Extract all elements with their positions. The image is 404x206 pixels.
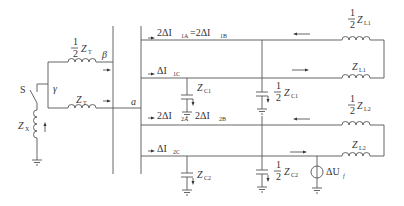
label-i1b-sub: 1B [220, 33, 227, 39]
label-node-beta: β [101, 49, 107, 60]
label-i1a-eq: =2ΔI [190, 27, 210, 38]
label-zt-half-sub: T [88, 49, 92, 55]
label-zc1: Z [197, 82, 203, 93]
label-zc1-half-den: 2 [276, 92, 281, 103]
zc2-capacitor-icon [181, 173, 193, 177]
label-i2c: ΔI [157, 143, 167, 154]
label-zl2-half-num: 1 [350, 93, 355, 104]
arrow-right-icon [151, 73, 155, 76]
label-zt: Z [76, 94, 82, 105]
arrow-down-icon [267, 99, 270, 103]
arrow-right-icon [151, 150, 155, 153]
half-zt-inductor-icon [68, 59, 96, 62]
arrow-down-icon [192, 102, 195, 106]
label-source: ΔU [326, 166, 340, 177]
zl1-inductor-icon [342, 75, 370, 79]
zc1-capacitor-icon [181, 95, 193, 99]
label-zc2-half: Z [284, 166, 290, 177]
label-zl1: Z [352, 61, 358, 72]
zx-inductor-icon [34, 110, 37, 138]
label-zc2-sub: C2 [204, 175, 211, 181]
ground-icon [32, 160, 42, 165]
label-zc2: Z [197, 169, 203, 180]
label-zl1-sub: L1 [359, 67, 366, 73]
label-zc2-half-num: 1 [276, 159, 281, 170]
arrow-right-icon [107, 69, 111, 72]
label-zt-sub: T [83, 100, 87, 106]
label-zc1-half-num: 1 [276, 80, 281, 91]
ground-icon [257, 109, 267, 114]
switch-blade-icon [30, 90, 37, 103]
label-node-gamma: γ [53, 83, 58, 94]
label-i1c-sub: 1C [173, 71, 180, 77]
label-i2a: 2ΔI [157, 110, 172, 121]
label-zc1-sub: C1 [204, 88, 211, 94]
label-switch-s: S [20, 84, 26, 95]
label-zl2-sub: L2 [359, 145, 366, 151]
line1-end-loop [370, 40, 384, 78]
arrow-right-icon [303, 151, 307, 154]
arrow-down-icon [267, 178, 270, 182]
label-i1a: 2ΔI [157, 27, 172, 38]
label-zc1-half-sub: C1 [291, 93, 298, 99]
half-zl1-inductor-icon [342, 37, 370, 41]
arrow-right-icon [305, 69, 309, 72]
half-zc1-capacitor-icon [256, 92, 268, 96]
line2-end-loop [370, 125, 384, 156]
label-zl1-half-num: 1 [350, 7, 355, 18]
label-i1c: ΔI [157, 65, 167, 76]
label-i1a-sub: 1A [181, 33, 189, 39]
label-i2c-sub: 2C [173, 149, 180, 155]
label-node-a: a [131, 96, 136, 107]
arrow-left-icon [293, 118, 297, 121]
half-zl2-inductor-icon [342, 122, 370, 126]
circuit-diagram: 1 2 Z T β γ Z T a S Z X [0, 0, 404, 206]
arrow-right-icon [107, 100, 111, 103]
label-zl2-half-sub: L2 [364, 106, 371, 112]
line-2-section: Z C2 1 2 Z C2 ΔU f 2ΔI 2A 2ΔI 2B [141, 93, 384, 195]
arrow-left-icon [293, 33, 297, 36]
label-zc2-half-sub: C2 [291, 172, 298, 178]
label-i2b-sub: 2B [219, 116, 226, 122]
ground-icon [312, 188, 322, 193]
label-zx-sub: X [25, 126, 30, 132]
zl2-inductor-icon [342, 153, 370, 157]
label-i2b: 2ΔI [195, 110, 210, 121]
arrow-up-icon [44, 122, 47, 126]
ground-icon [257, 187, 267, 192]
arrow-down-icon [192, 181, 195, 185]
bus-section [113, 26, 141, 174]
label-zx: Z [18, 120, 24, 131]
label-zc1-half: Z [284, 87, 290, 98]
switch-lead [37, 84, 48, 92]
transformer-section: 1 2 Z T β γ Z T a S Z X [18, 36, 141, 165]
label-i2a-sub: 2A [181, 116, 189, 122]
arrow-right-icon [151, 37, 155, 40]
line-1-section: Z C1 1 2 Z C1 2ΔI 1A =2ΔI 1B ΔI 1C [141, 7, 384, 117]
label-zl1-half-den: 2 [350, 19, 355, 30]
zt-inductor-icon [68, 105, 96, 109]
label-zc2-half-den: 2 [276, 171, 281, 182]
ground-icon [182, 190, 192, 195]
label-zl1-half-sub: L1 [364, 20, 371, 26]
label-zl2-half-den: 2 [350, 105, 355, 116]
label-zt-half-den: 2 [73, 48, 78, 59]
label-source-sub: f [343, 173, 346, 179]
label-zl2-half: Z [357, 100, 363, 111]
label-zt-half-num: 1 [73, 36, 78, 47]
label-zl1-half: Z [357, 14, 363, 25]
arrow-right-icon [151, 117, 155, 120]
label-zt-half: Z [81, 43, 87, 54]
half-zc2-capacitor-icon [256, 170, 268, 174]
label-zl2: Z [352, 139, 358, 150]
